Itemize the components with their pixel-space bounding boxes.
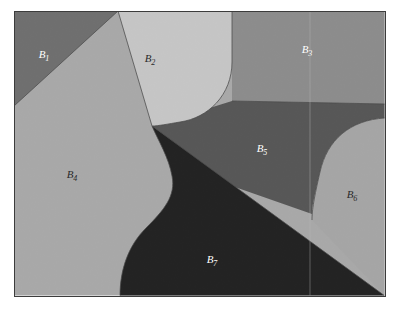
regions-group: [14, 11, 385, 296]
partition-diagram-canvas: B1 B2 B3 B4 B5 B6 B7: [0, 0, 399, 310]
region-label-B2-subscript: 2: [151, 58, 155, 67]
figure-page: B1 B2 B3 B4 B5 B6 B7: [0, 0, 399, 310]
region-label-B1-subscript: 1: [45, 54, 49, 63]
region-label-B6-subscript: 6: [353, 194, 357, 203]
paper-grain-overlay: [14, 11, 385, 296]
region-label-B5-subscript: 5: [263, 148, 267, 157]
region-label-B4-subscript: 4: [73, 174, 77, 183]
partition-diagram-figure: B1 B2 B3 B4 B5 B6 B7: [0, 0, 399, 310]
region-label-B3-subscript: 3: [307, 49, 312, 58]
